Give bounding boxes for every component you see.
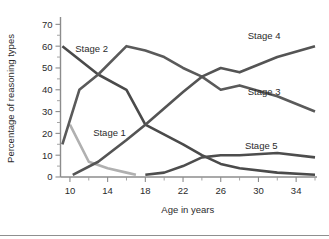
x-tick-label: 10 bbox=[65, 185, 76, 196]
series-line-stage-5 bbox=[145, 153, 315, 175]
x-tick-label: 34 bbox=[291, 185, 302, 196]
x-tick-label: 30 bbox=[253, 185, 264, 196]
y-tick-label: 40 bbox=[42, 84, 53, 95]
y-tick-label: 70 bbox=[42, 19, 53, 30]
y-tick-label: 20 bbox=[42, 128, 53, 139]
y-tick-label: 10 bbox=[42, 150, 53, 161]
y-tick-label: 50 bbox=[42, 62, 53, 73]
series-label-stage-4: Stage 4 bbox=[248, 30, 281, 41]
series-label-stage-3: Stage 3 bbox=[248, 86, 281, 97]
y-axis-title: Percentage of reasoning types bbox=[5, 34, 16, 163]
x-tick-label: 26 bbox=[215, 185, 226, 196]
y-tick-label: 30 bbox=[42, 106, 53, 117]
series-line-stage-4 bbox=[73, 46, 315, 175]
y-tick-label: 0 bbox=[47, 171, 52, 182]
x-tick-label: 22 bbox=[178, 185, 189, 196]
y-tick-label: 60 bbox=[42, 41, 53, 52]
series-line-stage-2 bbox=[62, 46, 315, 175]
series-label-stage-1: Stage 1 bbox=[93, 127, 126, 138]
line-chart: 01020304050607010141822263034Age in year… bbox=[0, 0, 329, 239]
chart-figure: 01020304050607010141822263034Age in year… bbox=[0, 0, 329, 239]
series-label-stage-5: Stage 5 bbox=[245, 140, 278, 151]
x-tick-label: 14 bbox=[102, 185, 113, 196]
footer-divider bbox=[0, 235, 329, 236]
series-label-stage-2: Stage 2 bbox=[75, 43, 108, 54]
x-axis-title: Age in years bbox=[161, 204, 214, 215]
x-tick-label: 18 bbox=[140, 185, 151, 196]
